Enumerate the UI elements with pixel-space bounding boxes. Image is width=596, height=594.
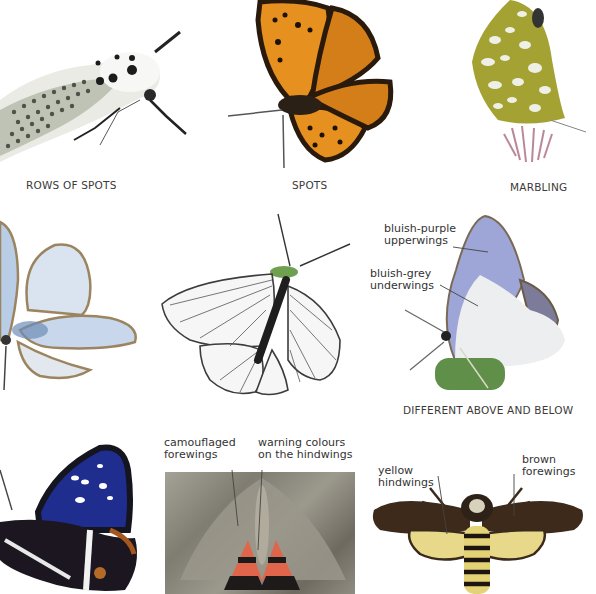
- annotation-bluish-purple-upperwings: bluish-purple upperwings: [384, 223, 456, 247]
- caption-rows-of-spots: ROWS OF SPOTS: [26, 179, 117, 191]
- annotation-brown-forewings: brown forewings: [522, 454, 575, 478]
- annotation-bluish-grey-underwings: bluish-grey underwings: [370, 268, 434, 292]
- panel-marbling: MARBLING: [400, 0, 596, 200]
- leopard-moth-illustration: [0, 0, 200, 170]
- annotation-camouflaged-forewings: camouflaged forewings: [164, 437, 236, 461]
- annotation-yellow-hindwings: yellow hindwings: [378, 465, 434, 489]
- panel-spots: SPOTS: [200, 0, 400, 200]
- panel-lines-or-streaks: LINES OR STREAKS: [0, 200, 160, 420]
- purple-emperor-illustration: [0, 430, 160, 594]
- copper-butterfly-illustration: [200, 0, 400, 170]
- caption-spots: SPOTS: [292, 179, 327, 191]
- panel-veining: VEINING: [160, 200, 360, 420]
- panel-rows-of-spots: ROWS OF SPOTS: [0, 0, 200, 200]
- blue-butterfly-illustration: [0, 200, 160, 400]
- panel-different-above-below: bluish-purple upperwings bluish-grey und…: [360, 200, 596, 420]
- black-veined-white-illustration: [160, 200, 360, 400]
- marbled-butterfly-illustration: [400, 0, 596, 170]
- panel-purple-emperor: [0, 430, 160, 594]
- annotation-warning-colours: warning colours on the hindwings: [258, 437, 352, 461]
- panel-hawkmoth: yellow hindwings brown forewings: [360, 430, 596, 594]
- caption-marbling: MARBLING: [510, 181, 567, 193]
- panel-camouflage: camouflaged forewings warning colours on…: [160, 430, 360, 594]
- caption-different-above-below: DIFFERENT ABOVE AND BELOW: [403, 404, 573, 416]
